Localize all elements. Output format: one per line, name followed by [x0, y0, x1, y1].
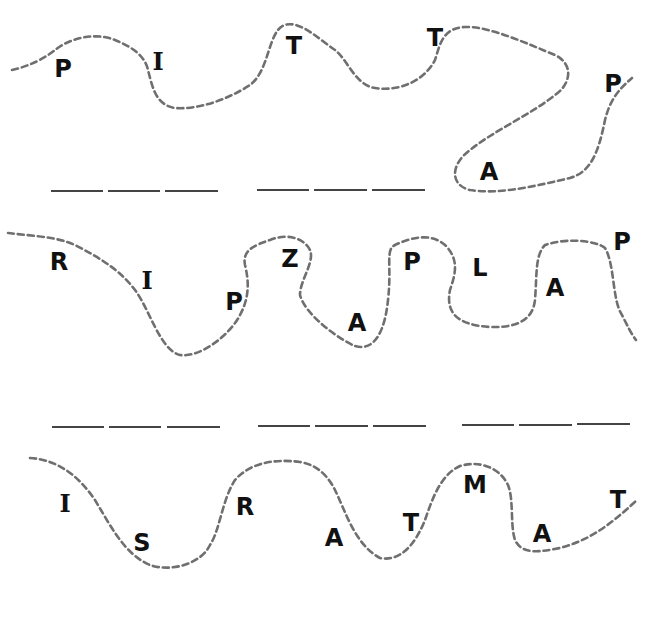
row-1-dashed-path	[12, 24, 632, 191]
scrambled-letter: P	[613, 230, 631, 254]
scrambled-letter: A	[325, 526, 344, 550]
scrambled-letter: T	[286, 34, 302, 58]
answer-blank[interactable]	[577, 423, 630, 425]
scrambled-letter: L	[472, 256, 487, 280]
scrambled-letter: T	[403, 511, 419, 535]
answer-blank[interactable]	[257, 189, 309, 191]
answer-blank[interactable]	[519, 424, 572, 426]
answer-blank[interactable]	[462, 424, 514, 426]
scrambled-letter: T	[427, 26, 443, 50]
answer-blank[interactable]	[167, 426, 220, 428]
answer-blank[interactable]	[314, 189, 367, 191]
scrambled-letter: Z	[281, 247, 298, 271]
scrambled-letter: A	[533, 522, 552, 546]
row-2-dashed-path	[8, 233, 636, 355]
scrambled-letter: A	[480, 160, 499, 184]
answer-blank[interactable]	[165, 190, 218, 192]
scrambled-letter: P	[225, 290, 243, 314]
answer-blank[interactable]	[109, 426, 161, 428]
answer-blank[interactable]	[315, 425, 368, 427]
answer-blank[interactable]	[372, 189, 425, 191]
answer-blank[interactable]	[52, 426, 104, 428]
scrambled-letter: A	[348, 311, 367, 335]
scrambled-letter: R	[50, 250, 68, 274]
scrambled-letter: P	[54, 57, 72, 81]
scrambled-letter: I	[59, 492, 70, 516]
scrambled-letter: A	[546, 276, 565, 300]
scrambled-letter: R	[236, 495, 254, 519]
scrambled-letter: P	[403, 250, 421, 274]
answer-blank[interactable]	[51, 190, 103, 192]
scrambled-letter: I	[141, 269, 152, 293]
scrambled-letter: T	[610, 488, 626, 512]
answer-blank[interactable]	[373, 425, 426, 427]
scrambled-letter: S	[133, 531, 150, 555]
answer-blank[interactable]	[258, 425, 310, 427]
scrambled-letter: P	[604, 72, 622, 96]
answer-blank[interactable]	[108, 190, 160, 192]
scrambled-letter: I	[152, 50, 163, 74]
scrambled-letter: M	[463, 473, 487, 497]
